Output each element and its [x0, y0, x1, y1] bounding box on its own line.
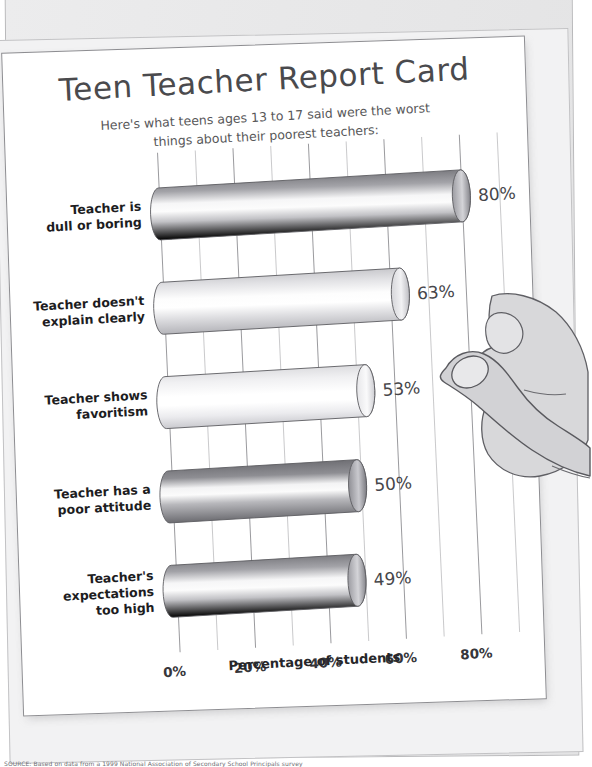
bar-body: [153, 268, 411, 335]
bar-value-label: 50%: [374, 472, 413, 495]
bar-body: [149, 170, 471, 241]
bar-value-label: 53%: [382, 377, 421, 400]
bar-value-label: 80%: [477, 183, 516, 206]
bar-body: [156, 364, 376, 429]
bar-5: [162, 554, 367, 618]
x-tick-label: 0%: [163, 663, 187, 680]
bar-value-label: 63%: [416, 281, 455, 304]
gridline: [497, 132, 520, 632]
bar-chart-svg: Teacher isdull or boring80%Teacher doesn…: [2, 37, 546, 716]
bar-3: [156, 364, 376, 429]
chart-paper: Teen Teacher Report Card Here's what tee…: [1, 35, 547, 716]
bar-category-label: too high: [96, 600, 155, 618]
x-tick-label: 80%: [460, 644, 494, 662]
bars-group: Teacher isdull or boring80%Teacher doesn…: [29, 168, 530, 621]
chart-plot-area: Teacher isdull or boring80%Teacher doesn…: [2, 37, 546, 716]
bar-4: [159, 459, 368, 523]
bar-value-label: 49%: [373, 567, 412, 590]
bar-category-label: dull or boring: [46, 215, 142, 235]
bar-category-label: favoritism: [76, 403, 149, 422]
source-note: SOURCE: Based on data from a 1999 Nation…: [4, 760, 578, 767]
bar-body: [162, 554, 367, 618]
bar-body: [159, 459, 368, 523]
bar-2: [153, 268, 411, 335]
bar-1: [149, 170, 471, 241]
